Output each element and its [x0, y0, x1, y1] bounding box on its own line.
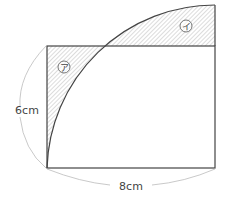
diagram-canvas: ア イ 6cm 8cm: [0, 0, 229, 201]
label-b: イ: [182, 22, 191, 32]
width-dimension-arc-left: [47, 169, 110, 185]
shaded-region-b: [104, 5, 216, 46]
label-a: ア: [60, 63, 69, 73]
height-dimension-arc: [20, 46, 46, 107]
height-label: 6cm: [15, 104, 39, 117]
width-label: 8cm: [119, 180, 143, 193]
height-dimension-arc-lower: [20, 117, 46, 168]
width-dimension-arc-right: [152, 169, 215, 185]
shaded-region-a: [47, 46, 104, 168]
